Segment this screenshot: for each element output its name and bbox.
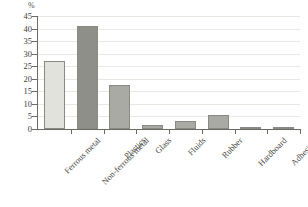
y-axis-tick-label: 35 bbox=[8, 37, 32, 46]
x-axis-tick bbox=[267, 130, 268, 134]
bar-rubber bbox=[208, 115, 229, 129]
y-axis-tick bbox=[32, 104, 37, 105]
x-axis-category-label: Hardboard bbox=[257, 136, 289, 168]
x-axis-tick bbox=[71, 130, 72, 134]
x-axis-tick bbox=[136, 130, 137, 134]
x-axis-tick bbox=[104, 130, 105, 134]
x-axis-tick bbox=[202, 130, 203, 134]
y-axis-tick-label: 25 bbox=[8, 62, 32, 71]
y-axis-tick bbox=[32, 116, 37, 117]
gridline bbox=[38, 16, 300, 17]
x-axis-tick bbox=[235, 130, 236, 134]
bar-fluids bbox=[175, 121, 196, 129]
bar-plastics bbox=[109, 85, 130, 129]
y-axis-tick-label: 0 bbox=[8, 125, 32, 134]
bar-ferrous-metal bbox=[44, 61, 65, 129]
y-axis-tick bbox=[32, 66, 37, 67]
y-axis-tick bbox=[32, 29, 37, 30]
bar-chart: % 051015202530354045 Ferrous metalNon-fe… bbox=[0, 0, 308, 207]
y-axis-unit-label: % bbox=[28, 1, 35, 10]
y-axis-line bbox=[37, 16, 38, 130]
x-axis-category-label: Ferrous metal bbox=[63, 136, 103, 176]
x-axis-category-label: Rubber bbox=[220, 136, 244, 160]
y-axis-tick-label: 30 bbox=[8, 50, 32, 59]
y-axis-tick-label: 15 bbox=[8, 87, 32, 96]
x-axis-tick bbox=[169, 130, 170, 134]
y-axis-tick-label: 10 bbox=[8, 100, 32, 109]
y-axis-tick bbox=[32, 16, 37, 17]
y-axis-tick bbox=[32, 54, 37, 55]
x-axis-category-label: Fluids bbox=[187, 136, 208, 157]
y-axis-tick-label: 45 bbox=[8, 12, 32, 21]
x-axis-category-label: Glass bbox=[153, 136, 173, 156]
bar-non-ferrous-metal bbox=[77, 26, 98, 129]
x-axis-tick bbox=[300, 130, 301, 134]
y-axis-tick bbox=[32, 129, 37, 130]
y-axis-tick-label: 40 bbox=[8, 25, 32, 34]
y-axis-tick-label: 20 bbox=[8, 75, 32, 84]
y-axis-tick bbox=[32, 41, 37, 42]
x-axis-category-label: Adhesives bbox=[289, 136, 308, 167]
y-axis-tick bbox=[32, 79, 37, 80]
plot-area bbox=[38, 16, 300, 129]
y-axis-tick-label: 5 bbox=[8, 112, 32, 121]
y-axis-tick bbox=[32, 91, 37, 92]
